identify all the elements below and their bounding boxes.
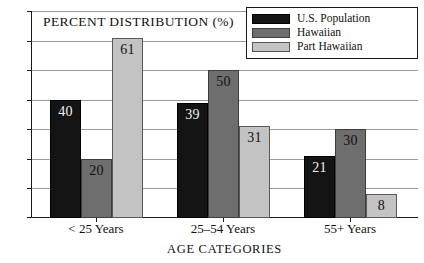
bar-value-label: 21 — [305, 161, 334, 175]
bar-value-label: 31 — [240, 131, 269, 145]
legend-item: Hawaiian — [252, 26, 412, 39]
bar-value-label: 39 — [178, 108, 207, 122]
bar: 8 — [366, 194, 397, 218]
legend-label: Part Hawaiian — [297, 41, 362, 53]
bar: 50 — [208, 70, 239, 218]
legend-item: Part Hawaiian — [252, 40, 412, 53]
x-axis-title: AGE CATEGORIES — [31, 242, 418, 257]
legend-label: U.S. Population — [297, 13, 370, 25]
bar: 61 — [112, 38, 143, 218]
bar: 39 — [177, 103, 208, 218]
legend-swatch-icon — [252, 14, 290, 24]
legend: U.S. Population Hawaiian Part Hawaiian — [246, 7, 418, 59]
bar: 20 — [81, 159, 112, 218]
x-category-label: < 25 Years — [46, 222, 146, 235]
bar-value-label: 61 — [113, 43, 142, 57]
bar: 30 — [335, 129, 366, 218]
bar-value-label: 50 — [209, 75, 238, 89]
legend-swatch-icon — [252, 28, 290, 38]
legend-label: Hawaiian — [297, 27, 341, 39]
bar-chart: 70 60 50 40 30 20 10 0 40 20 — [0, 0, 424, 263]
bar: 21 — [304, 156, 335, 218]
bar: 31 — [239, 126, 270, 218]
bar-value-label: 40 — [51, 105, 80, 119]
bar: 40 — [50, 100, 81, 218]
bar-value-label: 8 — [367, 199, 396, 213]
x-category-label: 55+ Years — [300, 222, 400, 235]
bar-value-label: 20 — [82, 164, 111, 178]
legend-swatch-icon — [252, 42, 290, 52]
legend-item: U.S. Population — [252, 12, 412, 25]
bar-value-label: 30 — [336, 134, 365, 148]
chart-title: PERCENT DISTRIBUTION (%) — [39, 12, 238, 32]
x-category-label: 25–54 Years — [173, 222, 273, 235]
